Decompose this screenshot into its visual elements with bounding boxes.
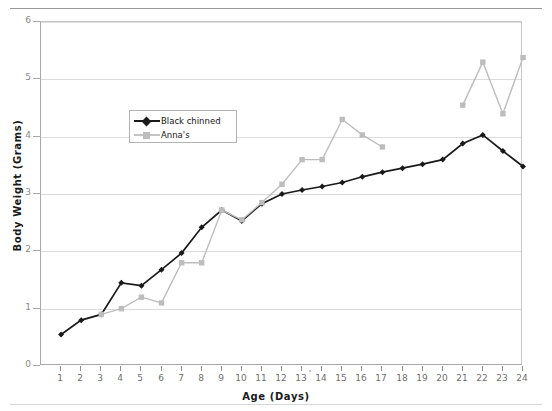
- y-tick-label-2: 2: [7, 245, 31, 254]
- data-point: [279, 182, 284, 187]
- data-point: [219, 207, 224, 212]
- y-tick-mark-0: [33, 365, 40, 366]
- data-point: [520, 55, 525, 60]
- plot-area: Black chinned Anna's: [40, 21, 522, 365]
- data-point: [179, 260, 184, 265]
- legend-entry-black-chinned: Black chinned: [134, 114, 232, 128]
- data-point: [99, 312, 104, 317]
- y-tick-mark-3: [33, 193, 40, 194]
- y-tick-mark-4: [33, 136, 40, 137]
- data-point: [340, 117, 345, 122]
- data-point: [119, 306, 124, 311]
- bottom-divider-rule: [10, 404, 542, 405]
- data-point: [359, 174, 365, 180]
- data-point: [379, 169, 385, 175]
- x-tick-mark-14: [321, 366, 322, 371]
- y-axis-title: Body Weight (Grams): [12, 81, 23, 291]
- y-tick-label-5: 5: [7, 73, 31, 82]
- series-anna-s: [99, 55, 526, 317]
- x-tick-mark-6: [161, 366, 162, 371]
- data-point: [500, 111, 505, 116]
- x-tick-mark-4: [120, 366, 121, 371]
- y-tick-label-1: 1: [7, 303, 31, 312]
- x-tick-mark-10: [241, 366, 242, 371]
- legend-label-black-chinned: Black chinned: [160, 116, 221, 126]
- stray-speck: [309, 370, 311, 372]
- data-point: [420, 161, 426, 167]
- x-tick-mark-17: [381, 366, 382, 371]
- legend-marker-diamond-icon: [134, 115, 160, 127]
- data-point: [199, 260, 204, 265]
- y-tick-mark-2: [33, 250, 40, 251]
- y-tick-label-4: 4: [7, 131, 31, 140]
- series-line: [61, 135, 523, 335]
- data-point: [460, 102, 465, 107]
- x-axis-title: Age (Days): [0, 391, 552, 402]
- x-tick-mark-5: [140, 366, 141, 371]
- legend-entry-annas: Anna's: [134, 128, 232, 142]
- x-tick-mark-15: [341, 366, 342, 371]
- x-tick-mark-9: [221, 366, 222, 371]
- series-line: [463, 58, 523, 114]
- x-tick-mark-16: [361, 366, 362, 371]
- data-point: [159, 300, 164, 305]
- data-point: [480, 59, 485, 64]
- x-tick-mark-13: [301, 366, 302, 371]
- x-tick-mark-8: [201, 366, 202, 371]
- series-black-chinned: [58, 132, 526, 338]
- data-point: [400, 165, 406, 171]
- x-tick-mark-12: [281, 366, 282, 371]
- x-tick-mark-3: [100, 366, 101, 371]
- chart-figure: Body Weight (Grams) 0123456 Black chinne…: [0, 0, 552, 411]
- x-tick-mark-23: [502, 366, 503, 371]
- top-divider-rule: [10, 8, 542, 9]
- legend-label-annas: Anna's: [160, 130, 190, 140]
- x-tick-mark-19: [422, 366, 423, 371]
- y-tick-mark-6: [33, 21, 40, 22]
- data-point: [259, 200, 264, 205]
- data-point: [360, 132, 365, 137]
- x-tick-mark-18: [402, 366, 403, 371]
- x-tick-mark-22: [482, 366, 483, 371]
- data-point: [299, 157, 304, 162]
- y-tick-label-3: 3: [7, 188, 31, 197]
- chart-legend: Black chinned Anna's: [129, 110, 237, 143]
- x-tick-mark-2: [80, 366, 81, 371]
- data-point: [319, 157, 324, 162]
- legend-marker-square-icon: [134, 129, 160, 141]
- y-tick-label-0: 0: [7, 360, 31, 369]
- x-tick-mark-7: [181, 366, 182, 371]
- x-tick-mark-11: [261, 366, 262, 371]
- x-tick-mark-1: [60, 366, 61, 371]
- y-tick-mark-1: [33, 308, 40, 309]
- data-point: [380, 144, 385, 149]
- data-point: [279, 191, 285, 197]
- series-layer: [41, 22, 523, 366]
- x-tick-mark-21: [462, 366, 463, 371]
- x-tick-label-24: 24: [510, 373, 534, 383]
- x-tick-mark-24: [522, 366, 523, 371]
- data-point: [139, 295, 144, 300]
- data-point: [299, 187, 305, 193]
- y-tick-label-6: 6: [7, 16, 31, 25]
- data-point: [339, 180, 345, 186]
- y-tick-mark-5: [33, 78, 40, 79]
- data-point: [319, 184, 325, 190]
- x-tick-mark-20: [442, 366, 443, 371]
- data-point: [239, 217, 244, 222]
